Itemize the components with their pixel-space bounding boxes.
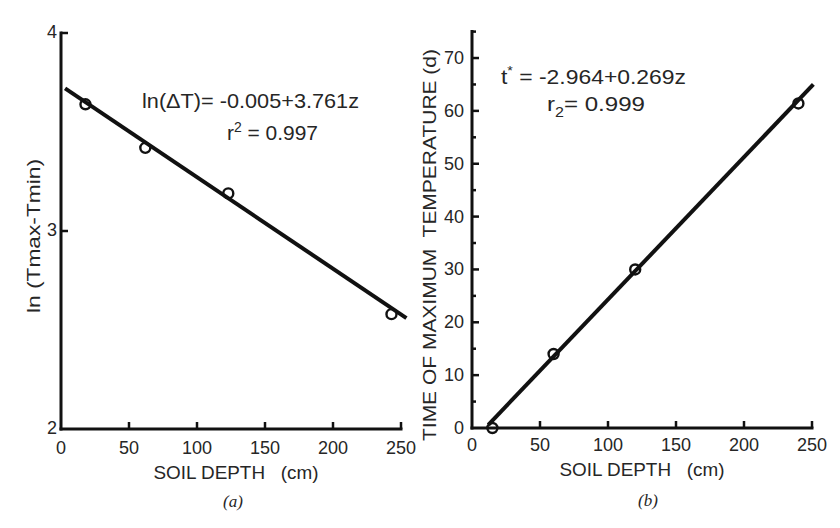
x-tick-label: 100 [593, 435, 623, 455]
x-axis-title: SOIL DEPTH (cm) [154, 463, 319, 483]
x-tick-label: 200 [729, 435, 759, 455]
panel-b-chart: 050100150200250010203040506070SOIL DEPTH… [420, 32, 827, 510]
panel-caption: (b) [638, 491, 658, 510]
fit-statistic-value: = 0.999 [564, 92, 645, 115]
x-tick-label: 250 [386, 438, 416, 458]
fit-statistic: r2 = 0.997 [227, 119, 318, 144]
y-tick-label: 2 [47, 418, 57, 438]
y-tick-label: 3 [47, 220, 57, 240]
data-point-open-circle-icon [386, 309, 396, 319]
fit-statistic-value: = 0.997 [242, 121, 318, 144]
fit-statistic-script: 2 [234, 119, 242, 135]
regression-equation: ln(ΔT)= -0.005+3.761z [142, 89, 359, 112]
y-axis-title: TIME OF MAXIMUM TEMPERATURE (d) [420, 49, 440, 441]
y-tick-label: 50 [444, 154, 464, 174]
y-tick-label: 4 [47, 22, 57, 42]
x-tick-label: 0 [467, 435, 477, 455]
y-tick-label: 20 [444, 312, 464, 332]
x-tick-label: 100 [182, 438, 212, 458]
x-tick-label: 0 [56, 438, 66, 458]
y-tick-label: 10 [444, 365, 464, 385]
x-tick-label: 50 [530, 435, 550, 455]
fit-statistic-base: r [227, 121, 234, 144]
fit-statistic: r2= 0.999 [547, 92, 645, 120]
equation-rest: = -2.964+0.269z [513, 65, 686, 88]
panel-caption: (a) [223, 492, 243, 511]
y-tick-label: 40 [444, 207, 464, 227]
x-tick-label: 250 [797, 435, 827, 455]
x-tick-label: 50 [119, 438, 139, 458]
fit-statistic-base: r [547, 92, 555, 115]
y-axis-title: ln (Tmax-Tmin) [24, 159, 44, 313]
y-tick-label: 70 [444, 48, 464, 68]
x-axis-title: SOIL DEPTH (cm) [560, 460, 725, 480]
panel-a-chart: 050100150200250234SOIL DEPTH (cm)ln (Tma… [24, 22, 416, 511]
y-tick-label: 60 [444, 101, 464, 121]
regression-equation: t* = -2.964+0.269z [501, 63, 686, 88]
x-tick-label: 150 [250, 438, 280, 458]
figure: 050100150200250234SOIL DEPTH (cm)ln (Tma… [0, 0, 840, 528]
x-tick-label: 200 [318, 438, 348, 458]
regression-line [488, 84, 813, 424]
y-tick-label: 0 [454, 418, 464, 438]
y-tick-label: 30 [444, 259, 464, 279]
fit-statistic-script: 2 [555, 104, 564, 120]
x-tick-label: 150 [661, 435, 691, 455]
